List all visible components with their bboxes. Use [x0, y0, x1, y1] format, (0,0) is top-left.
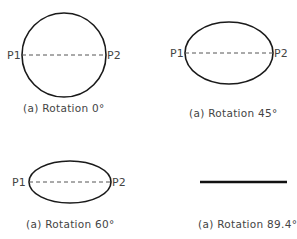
p1-label: P1 [170, 47, 184, 60]
rotation-diagram: P1 P2 (a) Rotation 0° P1 P2 (a) Rotation… [0, 0, 297, 239]
caption-rotation-60: (a) Rotation 60° [26, 218, 115, 230]
p2-label: P2 [107, 49, 121, 62]
p2-label: P2 [112, 176, 126, 189]
panel-rotation-89-4: (a) Rotation 89.4° [198, 182, 297, 230]
panel-rotation-0: P1 P2 (a) Rotation 0° [7, 13, 121, 114]
p1-label: P1 [12, 176, 26, 189]
caption-rotation-45: (a) Rotation 45° [189, 107, 278, 119]
panel-rotation-45: P1 P2 (a) Rotation 45° [170, 22, 288, 119]
caption-rotation-0: (a) Rotation 0° [23, 102, 105, 114]
caption-rotation-89-4: (a) Rotation 89.4° [198, 218, 297, 230]
panel-rotation-60: P1 P2 (a) Rotation 60° [12, 161, 126, 230]
p2-label: P2 [274, 47, 288, 60]
ellipse-shape [29, 161, 111, 203]
p1-label: P1 [7, 49, 21, 62]
